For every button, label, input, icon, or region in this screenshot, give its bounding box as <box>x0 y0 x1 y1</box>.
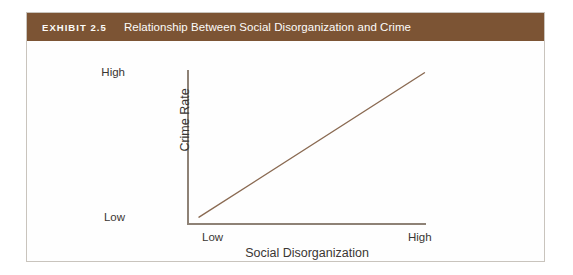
exhibit-header-bar: EXHIBIT 2.5 Relationship Between Social … <box>27 13 544 41</box>
exhibit-title: Relationship Between Social Disorganizat… <box>124 21 411 33</box>
y-axis-tick-high: High <box>101 66 125 78</box>
chart-plot-area: High Low Low High Crime Rate Social Diso… <box>27 41 544 261</box>
y-axis-tick-low: Low <box>104 211 125 223</box>
x-axis-title: Social Disorganization <box>207 246 407 260</box>
trend-line-path <box>199 73 424 217</box>
x-axis-tick-low: Low <box>202 231 223 243</box>
exhibit-number-label: EXHIBIT 2.5 <box>42 22 107 33</box>
y-axis-title: Crime Rate <box>178 80 192 160</box>
x-axis-tick-high: High <box>408 231 432 243</box>
exhibit-figure: EXHIBIT 2.5 Relationship Between Social … <box>26 12 545 262</box>
